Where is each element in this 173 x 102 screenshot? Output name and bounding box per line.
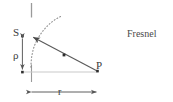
fresnel-diagram-graphic xyxy=(0,0,173,102)
transverse-offset-label: ρ xyxy=(13,50,19,61)
figure-canvas: S ρ P r Fresnel xyxy=(0,0,173,102)
ray-midpoint-marker xyxy=(63,54,66,57)
source-point-label: S xyxy=(13,27,19,38)
axis-origin-marker xyxy=(21,71,24,74)
distance-label: r xyxy=(58,87,61,97)
source-point-marker xyxy=(21,35,24,38)
figure-caption: Fresnel xyxy=(127,29,156,39)
field-point-label: P xyxy=(96,60,102,71)
wavefront-arc xyxy=(31,17,61,70)
